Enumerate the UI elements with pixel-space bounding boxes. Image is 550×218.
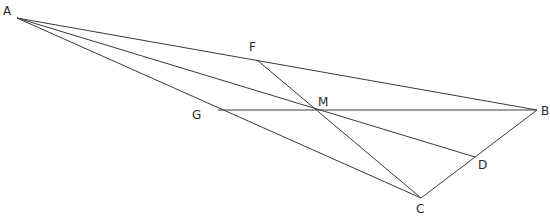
segment-BC (421, 110, 537, 198)
label-D: D (478, 159, 487, 171)
label-G: G (192, 109, 201, 121)
label-A: A (3, 5, 11, 17)
label-C: C (416, 203, 424, 215)
geometry-diagram: A B C D F G M (0, 0, 550, 218)
label-B: B (541, 105, 549, 117)
label-M: M (318, 96, 328, 108)
segment-AD (17, 18, 475, 157)
segment-AC (17, 18, 421, 198)
label-F: F (249, 41, 256, 53)
diagram-lines (0, 0, 550, 218)
segment-FC (257, 60, 421, 198)
segment-AB (17, 18, 537, 110)
